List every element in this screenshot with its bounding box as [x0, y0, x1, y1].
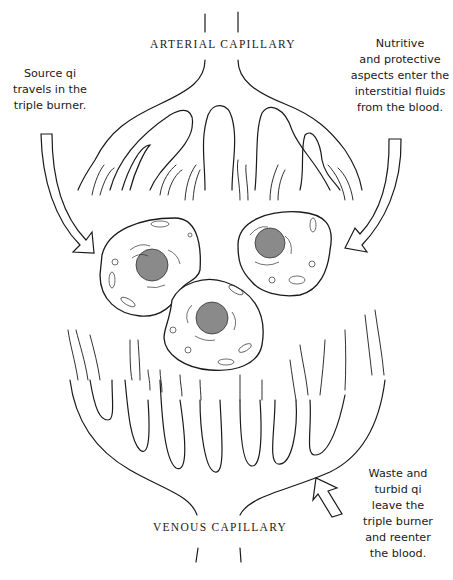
capillary-diagram: ARTERIAL CAPILLARY VENOUS CAPILLARY Sour… — [0, 0, 453, 580]
venous-capillary-label: VENOUS CAPILLARY — [150, 521, 290, 533]
cell-right — [238, 212, 331, 296]
waste-note: Waste and turbid qi leave the triple bur… — [358, 466, 438, 562]
nutritive-arrow-icon — [345, 139, 401, 252]
nutritive-note: Nutritive and protective aspects enter t… — [344, 36, 453, 116]
source-qi-note: Source qi travels in the triple burner. — [4, 66, 96, 114]
cell-center — [164, 279, 263, 370]
waste-arrow-icon — [313, 478, 342, 517]
arterial-capillary-label: ARTERIAL CAPILLARY — [150, 38, 296, 50]
source-qi-arrow-icon — [41, 134, 94, 253]
